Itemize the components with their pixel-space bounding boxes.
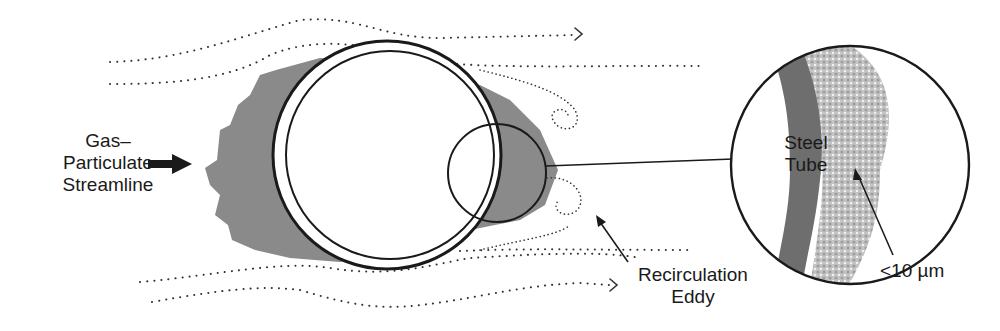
label-tube: Steel Tube: [778, 132, 834, 176]
label-eddy-line-1: Recirculation: [623, 264, 763, 286]
label-inlet-line-1: Gas–: [53, 130, 163, 152]
label-inlet-line-2: Particulate: [53, 152, 163, 174]
deposition-diagram: Gas– Particulate Streamline Steel Tube R…: [0, 0, 1000, 331]
label-inlet-line-3: Streamline: [53, 174, 163, 196]
label-eddy: Recirculation Eddy: [623, 264, 763, 308]
label-eddy-line-2: Eddy: [623, 286, 763, 308]
eddy-arrow: [596, 215, 628, 262]
label-tube-line-1: Steel: [778, 132, 834, 154]
label-particle-size: <10 µm: [880, 260, 970, 282]
label-tube-line-2: Tube: [778, 154, 834, 176]
steel-tube: [273, 41, 501, 269]
label-inlet: Gas– Particulate Streamline: [53, 130, 163, 196]
